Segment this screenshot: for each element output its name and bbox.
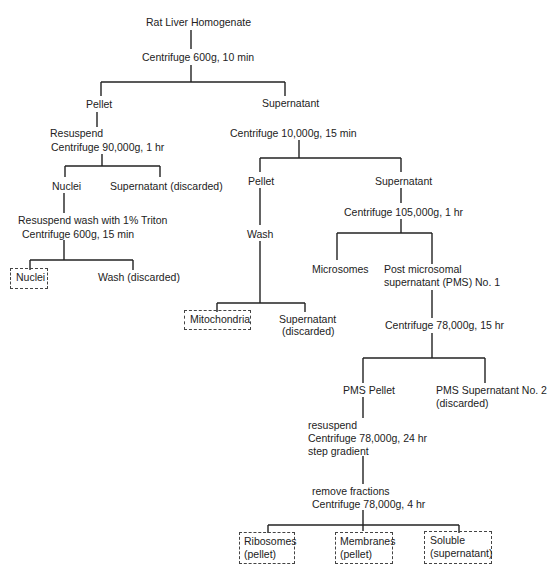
node-triton-wash: Resuspend wash with 1% Triton (18, 214, 167, 227)
fractionation-flowchart: Rat Liver Homogenate Centrifuge 600g, 10… (0, 0, 547, 574)
node-centrifuge-10000g: Centrifuge 10,000g, 15 min (230, 127, 357, 140)
node-membranes-line2: (pellet) (340, 548, 372, 561)
node-step-gradient: step gradient (308, 445, 369, 458)
node-soluble-line2: (supernatant) (430, 547, 492, 560)
node-mitochondria-final: Mitochondria (190, 313, 250, 326)
node-ribosomes-line1: Ribosomes (244, 535, 297, 548)
node-soluble-line1: Soluble (430, 534, 465, 547)
node-pms-supernatant-2-line2: (discarded) (436, 397, 489, 410)
node-pms-1-line2: supernatant (PMS) No. 1 (384, 276, 500, 289)
node-ribosomes-line2: (pellet) (244, 548, 276, 561)
node-centrifuge-105000g: Centrifuge 105,000g, 1 hr (344, 206, 463, 219)
node-pellet-1: Pellet (86, 98, 112, 111)
node-supernatant-discarded-2-line2: (discarded) (282, 325, 335, 338)
node-pms-supernatant-2-line1: PMS Supernatant No. 2 (436, 384, 547, 397)
node-pellet-2: Pellet (248, 175, 274, 188)
node-resuspend-1: Resuspend (50, 127, 103, 140)
node-supernatant-2: Supernatant (375, 175, 432, 188)
node-supernatant-discarded-1: Supernatant (discarded) (110, 180, 223, 193)
node-pms-1-line1: Post microsomal (384, 263, 462, 276)
node-wash: Wash (247, 228, 273, 241)
node-centrifuge-600g-15min: Centrifuge 600g, 15 min (22, 228, 134, 241)
node-root: Rat Liver Homogenate (146, 16, 251, 29)
node-microsomes: Microsomes (312, 263, 369, 276)
node-centrifuge-78000g-24hr: Centrifuge 78,000g, 24 hr (308, 432, 427, 445)
node-centrifuge-600g-10min: Centrifuge 600g, 10 min (142, 51, 254, 64)
node-centrifuge-78000g-4hr: Centrifuge 78,000g, 4 hr (312, 498, 425, 511)
node-supernatant-1: Supernatant (262, 97, 319, 110)
node-centrifuge-78000g-15hr: Centrifuge 78,000g, 15 hr (385, 319, 504, 332)
node-remove-fractions: remove fractions (312, 485, 390, 498)
node-nuclei-final: Nuclei (16, 271, 45, 284)
node-centrifuge-90000g: Centrifuge 90,000g, 1 hr (51, 141, 164, 154)
node-pms-pellet: PMS Pellet (343, 384, 395, 397)
node-resuspend-2: resuspend (308, 419, 357, 432)
node-wash-discarded: Wash (discarded) (98, 271, 180, 284)
node-membranes-line1: Membranes (340, 535, 395, 548)
node-nuclei-1: Nuclei (52, 180, 81, 193)
